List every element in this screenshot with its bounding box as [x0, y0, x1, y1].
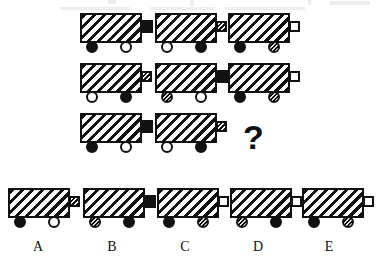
matrix-cell-row2-col2-right-wheel	[195, 91, 207, 103]
option-b-label[interactable]: B	[99, 240, 125, 254]
option-a-left-wheel	[14, 216, 26, 228]
matrix-cell-row1-col2	[155, 13, 233, 59]
matrix-cell-row2-col3-nozzle-box	[289, 71, 300, 82]
matrix-cell-row2-col2-left-wheel	[161, 91, 173, 103]
matrix-cell-row2-col1-body-hatched-rectangle	[80, 63, 142, 93]
matrix-cell-row2-col3	[228, 63, 306, 109]
matrix-cell-row1-col3-right-wheel	[268, 41, 280, 53]
option-a-figure	[8, 188, 86, 234]
option-b-body-hatched-rectangle	[83, 188, 145, 218]
matrix-cell-row3-col2	[155, 113, 233, 159]
option-c-figure	[157, 188, 235, 234]
matrix-cell-row3-col1-body-hatched-rectangle	[80, 113, 142, 143]
option-c-right-wheel	[197, 216, 209, 228]
option-d[interactable]	[230, 188, 308, 234]
matrix-cell-row2-col1-left-wheel	[86, 91, 98, 103]
matrix-cell-row1-col2-left-wheel	[161, 41, 173, 53]
matrix-cell-row1-col3-figure	[228, 13, 306, 59]
option-b-left-wheel	[89, 216, 101, 228]
matrix-cell-row2-col1-right-wheel	[120, 91, 132, 103]
option-e-nozzle-box	[363, 196, 374, 207]
option-e-figure	[302, 188, 379, 234]
option-a-label[interactable]: A	[25, 240, 51, 254]
puzzle-stage: ABCDE ?	[0, 0, 379, 261]
matrix-cell-row3-col1-figure	[80, 113, 158, 159]
matrix-cell-row3-col1-left-wheel	[86, 141, 98, 153]
matrix-cell-row1-col3	[228, 13, 306, 59]
matrix-cell-row1-col3-left-wheel	[234, 41, 246, 53]
matrix-cell-row2-col2-figure	[155, 63, 233, 109]
option-e-left-wheel	[308, 216, 320, 228]
option-a-nozzle-box	[69, 196, 80, 207]
matrix-cell-row2-col2	[155, 63, 233, 109]
option-b[interactable]	[83, 188, 161, 234]
matrix-cell-row3-col2-body-hatched-rectangle	[155, 113, 217, 143]
matrix-cell-row1-col1-nozzle-box	[141, 20, 153, 33]
option-c-body-hatched-rectangle	[157, 188, 219, 218]
matrix-cell-row2-col3-body-hatched-rectangle	[228, 63, 290, 93]
matrix-cell-row3-col2-right-wheel	[195, 141, 207, 153]
option-b-figure	[83, 188, 161, 234]
matrix-cell-row2-col2-body-hatched-rectangle	[155, 63, 217, 93]
matrix-cell-row3-col1	[80, 113, 158, 159]
matrix-cell-row1-col1	[80, 13, 158, 59]
matrix-cell-row3-col1-nozzle-box	[141, 120, 153, 133]
matrix-cell-row1-col3-nozzle-box	[289, 21, 300, 32]
matrix-cell-row3-col2-nozzle-box	[216, 121, 227, 132]
matrix-cell-row1-col2-figure	[155, 13, 233, 59]
matrix-cell-row2-col3-right-wheel	[268, 91, 280, 103]
option-c[interactable]	[157, 188, 235, 234]
missing-cell-question-mark: ?	[243, 120, 264, 154]
option-d-nozzle-box	[291, 196, 302, 207]
matrix-cell-row2-col2-nozzle-box	[216, 70, 228, 83]
matrix-cell-row2-col1-figure	[80, 63, 158, 109]
matrix-cell-row1-col1-right-wheel	[120, 41, 132, 53]
matrix-cell-row1-col1-left-wheel	[86, 41, 98, 53]
option-d-left-wheel	[236, 216, 248, 228]
option-d-figure	[230, 188, 308, 234]
option-e-body-hatched-rectangle	[302, 188, 364, 218]
option-c-left-wheel	[163, 216, 175, 228]
matrix-cell-row2-col1	[80, 63, 158, 109]
option-a-right-wheel	[48, 216, 60, 228]
matrix-cell-row2-col1-nozzle-box	[141, 71, 152, 82]
matrix-cell-row1-col3-body-hatched-rectangle	[228, 13, 290, 43]
option-e-label[interactable]: E	[316, 240, 342, 254]
matrix-cell-row1-col1-figure	[80, 13, 158, 59]
matrix-cell-row1-col2-right-wheel	[195, 41, 207, 53]
option-b-right-wheel	[123, 216, 135, 228]
matrix-cell-row1-col2-body-hatched-rectangle	[155, 13, 217, 43]
matrix-cell-row3-col2-figure	[155, 113, 233, 159]
option-c-nozzle-box	[218, 196, 229, 207]
matrix-cell-row3-col1-right-wheel	[120, 141, 132, 153]
option-e[interactable]	[302, 188, 379, 234]
matrix-cell-row1-col1-body-hatched-rectangle	[80, 13, 142, 43]
matrix-cell-row2-col3-figure	[228, 63, 306, 109]
matrix-cell-row1-col2-nozzle-box	[216, 21, 227, 32]
option-b-nozzle-box	[144, 195, 156, 208]
option-d-right-wheel	[270, 216, 282, 228]
option-d-label[interactable]: D	[245, 240, 271, 254]
option-a-body-hatched-rectangle	[8, 188, 70, 218]
matrix-cell-row3-col2-left-wheel	[161, 141, 173, 153]
option-d-body-hatched-rectangle	[230, 188, 292, 218]
option-e-right-wheel	[342, 216, 354, 228]
matrix-cell-row2-col3-left-wheel	[234, 91, 246, 103]
option-a[interactable]	[8, 188, 86, 234]
option-c-label[interactable]: C	[172, 240, 198, 254]
